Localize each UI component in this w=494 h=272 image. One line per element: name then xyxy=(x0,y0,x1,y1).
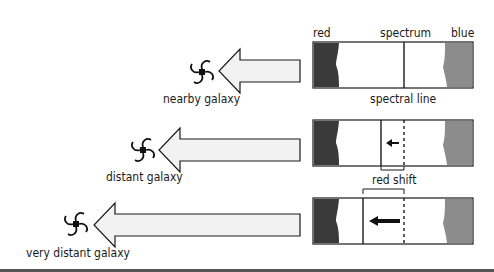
row-distant: distant galaxy red shift xyxy=(106,120,473,187)
recession-arrow xyxy=(219,49,300,93)
blue-label: blue xyxy=(451,26,475,40)
redshift-diagram: red spectrum blue nearby galaxy spectral… xyxy=(0,0,494,272)
row-nearby: nearby galaxy spectral line xyxy=(163,42,473,106)
recession-arrow xyxy=(159,128,300,172)
blue-band xyxy=(443,121,472,165)
blue-band xyxy=(443,43,472,87)
row-very-distant: very distant galaxy xyxy=(26,189,473,260)
galaxy-label: nearby galaxy xyxy=(163,92,241,106)
galaxy-icon xyxy=(65,213,87,235)
spectral-line-label: spectral line xyxy=(370,92,437,106)
shift-bracket xyxy=(381,166,404,170)
spectrum-label: spectrum xyxy=(380,26,431,40)
galaxy-label: distant galaxy xyxy=(106,170,183,184)
shift-bracket xyxy=(363,189,404,194)
galaxy-icon xyxy=(132,139,154,161)
galaxy-label: very distant galaxy xyxy=(26,246,131,260)
red-band xyxy=(314,43,339,87)
galaxy-icon xyxy=(191,61,213,83)
red-band xyxy=(314,121,339,165)
red-band xyxy=(314,199,339,243)
blue-band xyxy=(443,199,472,243)
red-label: red xyxy=(313,26,331,40)
recession-arrow xyxy=(94,203,300,247)
red-shift-label: red shift xyxy=(372,173,416,187)
